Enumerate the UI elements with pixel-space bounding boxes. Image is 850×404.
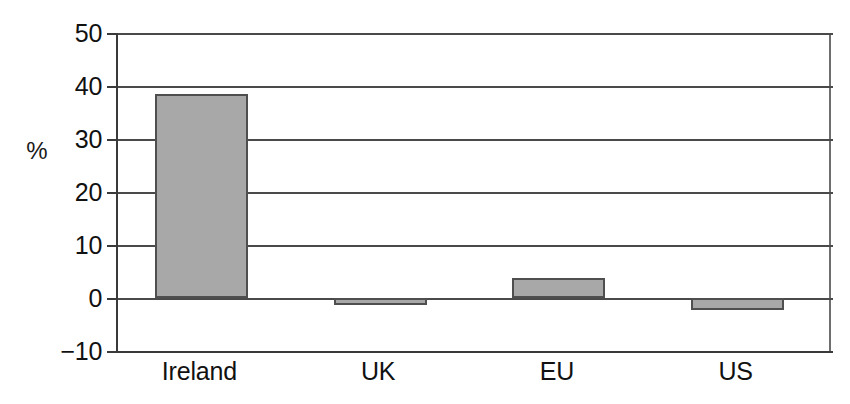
bar-eu [512, 278, 605, 298]
y-axis-tick [107, 298, 118, 300]
gridline [118, 351, 833, 353]
y-axis-tick [107, 192, 118, 194]
y-axis-tick-label: 50 [30, 21, 102, 46]
y-axis-tick [107, 245, 118, 247]
bar-uk [334, 298, 427, 305]
plot-area [116, 34, 831, 352]
y-axis-tick-label: 30 [30, 127, 102, 152]
y-axis-tick [107, 351, 118, 353]
bar-us [691, 298, 784, 310]
x-axis-label-eu: EU [467, 357, 647, 385]
x-axis-label-ireland: Ireland [109, 357, 289, 385]
y-axis-tick-label: 20 [30, 180, 102, 205]
bar-ireland [155, 94, 248, 298]
y-axis-tick-label: 10 [30, 233, 102, 258]
y-axis-tick [107, 86, 118, 88]
y-axis-tick [107, 33, 118, 35]
y-axis-tick [107, 139, 118, 141]
x-axis-label-us: US [646, 357, 826, 385]
x-axis-label-uk: UK [288, 357, 468, 385]
gridline [118, 86, 833, 88]
y-axis-tick-label: 40 [30, 74, 102, 99]
gridline [118, 33, 833, 35]
y-axis-tick-label: 0 [30, 286, 102, 311]
y-axis-tick-label: −10 [30, 339, 102, 364]
bar-chart: % 50403020100−10 IrelandUKEUUS [0, 0, 850, 404]
